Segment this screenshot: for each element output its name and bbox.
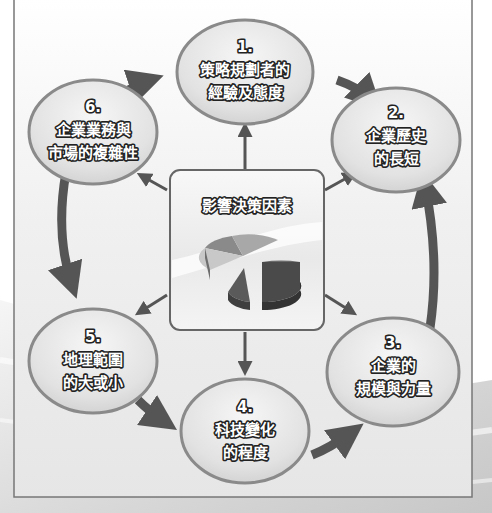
node-6-line-1: 企業業務與 bbox=[55, 121, 131, 139]
node-1-line-1: 策略規劃者的 bbox=[199, 61, 290, 79]
node-5-number: 5. bbox=[85, 328, 101, 346]
node-4-number: 4. bbox=[237, 398, 253, 416]
decision-factors-diagram: 影響決策因素 1. 策略規劃者的 經驗及態度 2. 企業歷史 的長短 3. 企業… bbox=[0, 0, 492, 513]
node-2-number: 2. bbox=[388, 104, 404, 122]
node-3-number: 3. bbox=[385, 334, 401, 352]
node-1: 1. 策略規劃者的 經驗及態度 bbox=[177, 20, 313, 124]
node-5: 5. 地理範圍 的大或小 bbox=[29, 309, 157, 413]
node-2-line-2: 的長短 bbox=[374, 150, 419, 168]
center-title: 影響決策因素 bbox=[202, 197, 292, 215]
center-box: 影響決策因素 bbox=[170, 170, 324, 330]
node-4-line-1: 科技變化 bbox=[215, 421, 275, 439]
node-6: 6. 企業業務與 市場的複雜性 bbox=[29, 80, 157, 184]
node-2: 2. 企業歷史 的長短 bbox=[332, 88, 460, 192]
node-1-line-2: 經驗及態度 bbox=[208, 84, 284, 102]
node-6-line-2: 市場的複雜性 bbox=[48, 144, 138, 162]
node-1-number: 1. bbox=[237, 38, 253, 56]
node-3-line-2: 規模與力量 bbox=[356, 380, 431, 398]
node-4: 4. 科技變化 的程度 bbox=[181, 379, 309, 483]
node-2-line-1: 企業歷史 bbox=[365, 127, 427, 145]
node-5-line-2: 的大或小 bbox=[63, 374, 123, 392]
node-3-line-1: 企業的 bbox=[370, 357, 416, 375]
node-3: 3. 企業的 規模與力量 bbox=[327, 318, 459, 426]
node-5-line-1: 地理範圍 bbox=[63, 351, 123, 369]
node-6-number: 6. bbox=[85, 98, 101, 116]
node-4-line-2: 的程度 bbox=[223, 444, 269, 462]
